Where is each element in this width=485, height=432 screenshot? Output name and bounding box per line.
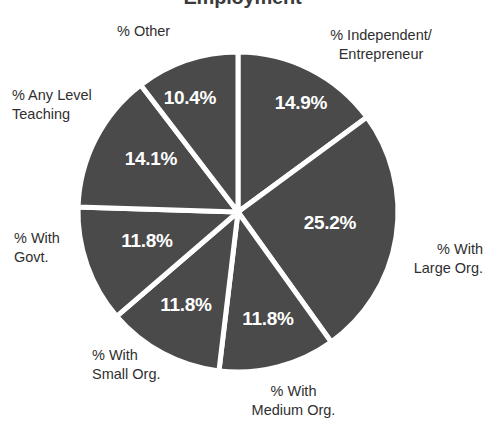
pie-slice-category-label: % With Large Org. xyxy=(398,240,483,277)
pie-slice-category-label: % With Medium Org. xyxy=(226,382,361,419)
pie-chart-figure: Employment 14.9%25.2%11.8%11.8%11.8%14.1… xyxy=(0,0,485,432)
pie-chart-svg: 14.9%25.2%11.8%11.8%11.8%14.1%10.4% xyxy=(0,0,485,432)
pie-slice-value-label: 11.8% xyxy=(121,230,173,251)
pie-slice-category-label: % With Govt. xyxy=(14,229,119,266)
pie-slice-category-label: % Any Level Teaching xyxy=(12,86,127,123)
pie-slice-category-label: % Independent/ Entrepreneur xyxy=(296,26,466,63)
pie-slice-category-label: % With Small Org. xyxy=(92,346,207,383)
pie-slice-value-label: 11.8% xyxy=(242,308,294,329)
pie-slice-value-label: 14.1% xyxy=(125,148,178,169)
pie-slice-category-label: % Other xyxy=(117,22,217,41)
pie-slice-value-label: 14.9% xyxy=(275,92,328,113)
pie-slice-value-label: 11.8% xyxy=(160,294,212,315)
pie-slice-value-label: 10.4% xyxy=(164,87,217,108)
pie-slice-value-label: 25.2% xyxy=(304,212,357,233)
